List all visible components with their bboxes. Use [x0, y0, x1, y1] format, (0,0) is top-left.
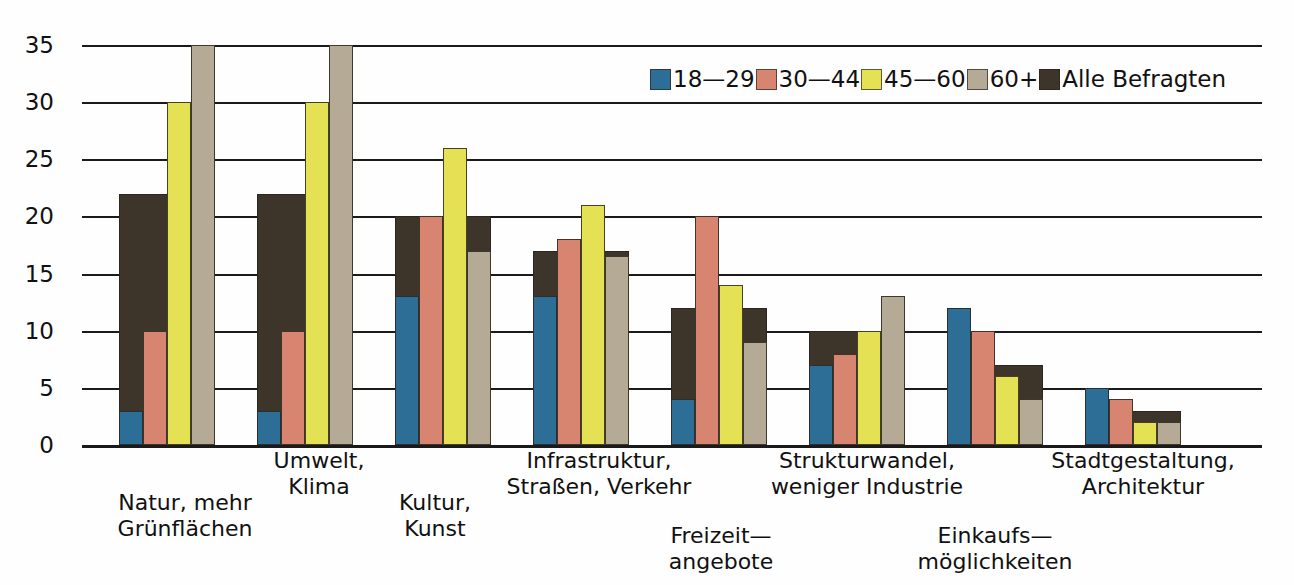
legend-item: Alle Befragten — [1039, 68, 1227, 91]
legend-swatch-icon — [861, 69, 882, 90]
bar-18-29 — [671, 399, 695, 445]
category-label-line: Stadtgestaltung, — [1051, 448, 1234, 474]
category-label: Strukturwandel,weniger Industrie — [771, 448, 963, 500]
category-label-line: Architektur — [1051, 474, 1234, 500]
legend-label: 18—29 — [671, 68, 756, 91]
category-label: Freizeit—angebote — [669, 523, 774, 575]
bar-60+ — [191, 45, 215, 445]
bar-30-44 — [971, 331, 995, 445]
bar-group — [395, 45, 491, 445]
bar-30-44 — [1109, 399, 1133, 445]
legend-item: 60+ — [967, 68, 1040, 91]
bar-group — [533, 45, 629, 445]
y-tick-label: 5 — [39, 375, 54, 401]
bar-45-60 — [857, 331, 881, 445]
category-label-line: Infrastruktur, — [507, 448, 692, 474]
legend-swatch-icon — [756, 69, 777, 90]
category-label-line: Klima — [274, 474, 365, 500]
bar-60+ — [329, 45, 353, 445]
bar-group — [671, 45, 767, 445]
bar-45-60 — [443, 148, 467, 445]
bar-45-60 — [305, 102, 329, 445]
y-tick-label: 20 — [25, 203, 54, 229]
category-label-line: Freizeit— — [669, 523, 774, 549]
bar-group — [257, 45, 353, 445]
category-label: Natur, mehrGrünflächen — [118, 490, 253, 542]
legend-item: 30—44 — [756, 68, 862, 91]
bar-group — [1085, 45, 1181, 445]
bar-18-29 — [947, 308, 971, 445]
bar-18-29 — [533, 296, 557, 445]
category-label-line: möglichkeiten — [918, 549, 1073, 575]
bar-30-44 — [557, 239, 581, 445]
bar-group — [947, 45, 1043, 445]
category-label-line: Kunst — [399, 516, 471, 542]
category-label-line: angebote — [669, 549, 774, 575]
bar-30-44 — [419, 216, 443, 445]
y-tick-label: 25 — [25, 146, 54, 172]
bar-60+ — [467, 251, 491, 445]
bar-group — [809, 45, 905, 445]
bar-60+ — [1019, 399, 1043, 445]
y-tick-label: 10 — [25, 318, 54, 344]
category-label: Kultur,Kunst — [399, 490, 471, 542]
plot-area: 05101520253035 — [82, 45, 1262, 445]
bar-30-44 — [143, 331, 167, 445]
chart-legend: 18—2930—4445—6060+Alle Befragten — [648, 68, 1229, 91]
category-label-line: Kultur, — [399, 490, 471, 516]
bar-30-44 — [281, 331, 305, 445]
category-label-line: Strukturwandel, — [771, 448, 963, 474]
bar-18-29 — [1085, 388, 1109, 445]
bar-45-60 — [167, 102, 191, 445]
category-label: Infrastruktur,Straßen, Verkehr — [507, 448, 692, 500]
bar-18-29 — [119, 411, 143, 445]
legend-swatch-icon — [967, 69, 988, 90]
y-tick-label: 30 — [25, 89, 54, 115]
bar-60+ — [605, 256, 629, 445]
bar-45-60 — [995, 376, 1019, 445]
category-label: Umwelt,Klima — [274, 448, 365, 500]
bar-group — [119, 45, 215, 445]
legend-label: Alle Befragten — [1060, 68, 1227, 91]
bar-60+ — [1157, 422, 1181, 445]
category-label-line: Umwelt, — [274, 448, 365, 474]
category-label-line: Natur, mehr — [118, 490, 253, 516]
bar-18-29 — [809, 365, 833, 445]
bar-30-44 — [833, 354, 857, 445]
category-label-line: Grünflächen — [118, 516, 253, 542]
bar-45-60 — [1133, 422, 1157, 445]
bar-60+ — [743, 342, 767, 445]
legend-item: 45—60 — [861, 68, 967, 91]
bar-18-29 — [257, 411, 281, 445]
legend-item: 18—29 — [650, 68, 756, 91]
bar-30-44 — [695, 216, 719, 445]
y-tick-label: 15 — [25, 261, 54, 287]
bar-45-60 — [719, 285, 743, 445]
legend-label: 45—60 — [882, 68, 967, 91]
bar-chart: 05101520253035 18—2930—4445—6060+Alle Be… — [0, 0, 1294, 585]
legend-label: 30—44 — [777, 68, 862, 91]
category-label: Stadtgestaltung,Architektur — [1051, 448, 1234, 500]
category-label: Einkaufs—möglichkeiten — [918, 523, 1073, 575]
bar-groups — [82, 45, 1262, 445]
legend-label: 60+ — [988, 68, 1040, 91]
category-label-line: Einkaufs— — [918, 523, 1073, 549]
legend-swatch-icon — [1039, 69, 1060, 90]
bar-18-29 — [395, 296, 419, 445]
legend-swatch-icon — [650, 69, 671, 90]
bar-60+ — [881, 296, 905, 445]
category-label-line: weniger Industrie — [771, 474, 963, 500]
category-axis-labels: Natur, mehrGrünflächenUmwelt,KlimaKultur… — [0, 448, 1294, 585]
category-label-line: Straßen, Verkehr — [507, 474, 692, 500]
y-tick-label: 35 — [25, 32, 54, 58]
bar-45-60 — [581, 205, 605, 445]
